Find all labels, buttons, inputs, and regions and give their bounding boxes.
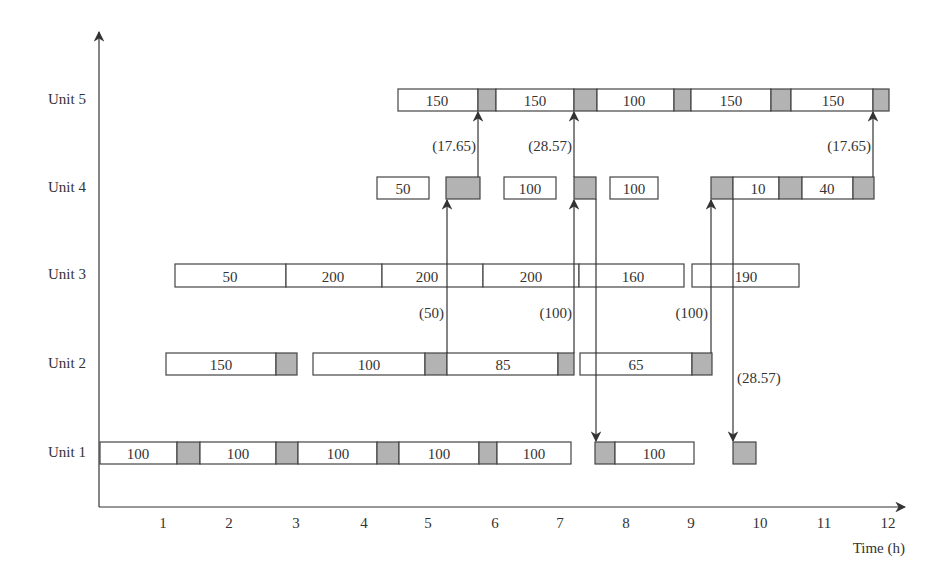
task-label: 150 <box>524 93 547 109</box>
task-label: 100 <box>227 446 250 462</box>
x-tick: 5 <box>424 515 432 531</box>
task-label: 150 <box>210 357 233 373</box>
row-label-unit3: Unit 3 <box>48 266 86 282</box>
task-label: 150 <box>822 93 845 109</box>
flow-label: (17.65) <box>827 138 871 155</box>
row-label-unit1: Unit 1 <box>48 444 86 460</box>
x-tick: 4 <box>360 515 368 531</box>
flow-label: (50) <box>419 305 444 322</box>
unit1-row: 100 100 100 100 100 100 <box>100 442 756 464</box>
gantt-chart: Unit 5 Unit 4 Unit 3 Unit 2 Unit 1 1 2 3… <box>0 0 951 585</box>
task-label: 160 <box>622 269 645 285</box>
task-label: 100 <box>519 181 542 197</box>
flow-label: (28.57) <box>737 370 781 387</box>
x-tick-labels: 1 2 3 4 5 6 7 8 9 10 11 12 <box>159 515 895 531</box>
x-tick: 3 <box>292 515 300 531</box>
x-tick: 9 <box>687 515 695 531</box>
task-label: 200 <box>416 269 439 285</box>
task-label: 190 <box>735 269 758 285</box>
row-label-unit2: Unit 2 <box>48 355 86 371</box>
flow-label: (100) <box>540 305 573 322</box>
flow-label: (17.65) <box>432 138 476 155</box>
flow-labels: (17.65) (28.57) (17.65) (50) (100) (100) <box>419 138 871 322</box>
task-label: 200 <box>520 269 543 285</box>
task-label: 85 <box>496 357 511 373</box>
task-label: 50 <box>223 269 238 285</box>
task-label: 10 <box>751 181 766 197</box>
unit2-row: 150 100 85 65 <box>166 353 712 375</box>
task-label: 200 <box>322 269 345 285</box>
x-tick: 7 <box>556 515 564 531</box>
task-label: 100 <box>127 446 150 462</box>
task-label: 40 <box>820 181 835 197</box>
unit5-row: 150 150 100 150 150 <box>398 89 889 111</box>
task-label: 100 <box>327 446 350 462</box>
row-label-unit4: Unit 4 <box>48 179 86 195</box>
x-tick: 6 <box>491 515 499 531</box>
x-tick: 10 <box>753 515 768 531</box>
x-tick: 2 <box>225 515 233 531</box>
x-tick: 1 <box>159 515 167 531</box>
task-label: 150 <box>426 93 449 109</box>
task-label: 100 <box>428 446 451 462</box>
x-axis-label: Time (h) <box>853 540 905 557</box>
row-label-unit5: Unit 5 <box>48 91 86 107</box>
flow-label: (100) <box>676 305 709 322</box>
unit4-row: 50 100 100 10 40 <box>377 177 874 199</box>
task-label: 100 <box>623 181 646 197</box>
unit3-row: 50 200 200 200 160 190 <box>175 264 799 287</box>
task-label: 100 <box>523 446 546 462</box>
task-label: 100 <box>358 357 381 373</box>
task-label: 150 <box>720 93 743 109</box>
flow-label: (28.57) <box>528 138 572 155</box>
x-tick: 12 <box>881 515 896 531</box>
x-tick: 8 <box>622 515 630 531</box>
task-label: 100 <box>643 446 666 462</box>
task-label: 100 <box>623 93 646 109</box>
x-tick: 11 <box>817 515 831 531</box>
task-label: 50 <box>396 181 411 197</box>
task-label: 65 <box>629 357 644 373</box>
